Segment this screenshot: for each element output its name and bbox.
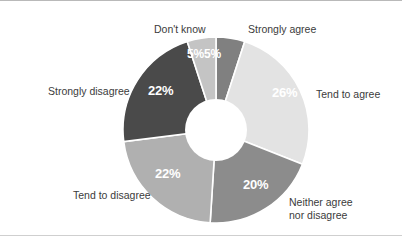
category-label-strongly-disagree: Strongly disagree [48, 85, 130, 98]
figure-bottom-border [0, 235, 402, 236]
slice-value-neither: 20% [243, 178, 268, 191]
donut-chart-figure: 5% 26% 20% 22% 22% 5% Don't know Strongl… [0, 0, 402, 236]
slice-value-dont-know: 5% [187, 48, 204, 60]
slice-value-strongly-disagree: 22% [148, 84, 173, 97]
category-label-neither-line2: nor disagree [289, 209, 353, 222]
category-label-dont-know: Don't know [154, 23, 206, 36]
slice-value-tend-to-disagree: 22% [155, 167, 180, 180]
category-label-strongly-agree: Strongly agree [248, 23, 316, 36]
slice-value-strongly-agree: 5% [204, 48, 221, 60]
figure-top-border [0, 0, 402, 1]
category-label-neither-agree-nor-disagree: Neither agree nor disagree [289, 196, 353, 221]
donut-hole [185, 99, 247, 161]
category-label-tend-to-agree: Tend to agree [316, 88, 380, 101]
slice-value-tend-to-agree: 26% [272, 86, 297, 99]
category-label-neither-line1: Neither agree [289, 196, 353, 209]
category-label-tend-to-disagree: Tend to disagree [73, 189, 151, 202]
